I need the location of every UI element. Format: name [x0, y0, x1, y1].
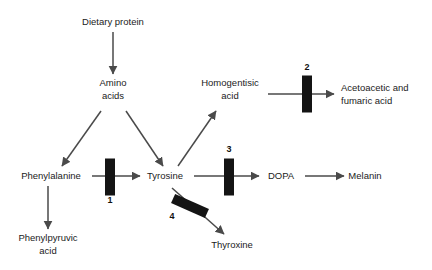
node-line: Homogentisic — [201, 77, 259, 88]
node-line: acids — [102, 90, 124, 101]
node-line: DOPA — [268, 170, 295, 181]
node-label-acetoacetic-fumaric-acid: Acetoacetic andfumaric acid — [341, 82, 409, 106]
enzyme-block-4: 4 — [169, 194, 208, 221]
arrow-tyrosine-to-homogentisic-acid — [178, 111, 216, 166]
block-1-number: 1 — [107, 195, 112, 205]
enzyme-block-2: 2 — [302, 62, 312, 113]
node-line: Phenylpyruvic — [18, 232, 77, 243]
node-line: fumaric acid — [341, 95, 392, 106]
node-label-phenylpyruvic-acid: Phenylpyruvicacid — [18, 232, 77, 256]
block-4-bar — [171, 194, 209, 218]
node-line: Amino — [100, 77, 127, 88]
labels-layer: Dietary proteinAminoacidsHomogentisicaci… — [18, 16, 408, 256]
node-line: acid — [39, 245, 56, 256]
node-label-amino-acids: Aminoacids — [100, 77, 127, 101]
enzyme-block-1: 1 — [105, 159, 115, 206]
node-line: acid — [221, 90, 238, 101]
node-line: Tyrosine — [147, 170, 183, 181]
node-line: Phenylalanine — [21, 170, 81, 181]
node-label-melanin: Melanin — [348, 170, 381, 181]
node-line: Melanin — [348, 170, 381, 181]
node-label-dietary-protein: Dietary protein — [82, 16, 144, 27]
node-line: Dietary protein — [82, 16, 144, 27]
node-line: Thyroxine — [211, 239, 253, 250]
arrow-amino-acids-to-tyrosine — [126, 111, 163, 166]
node-label-homogentisic-acid: Homogentisicacid — [201, 77, 259, 101]
pathway-diagram: 1234 Dietary proteinAminoacidsHomogentis… — [0, 0, 432, 270]
block-2-number: 2 — [304, 62, 309, 72]
enzyme-block-3: 3 — [224, 144, 234, 196]
block-4-number: 4 — [169, 211, 174, 221]
pathway-canvas: 1234 Dietary proteinAminoacidsHomogentis… — [0, 0, 432, 270]
arrow-amino-acids-to-phenylalanine — [62, 111, 101, 166]
block-1-bar — [105, 159, 115, 196]
block-3-number: 3 — [226, 144, 231, 154]
node-label-dopa: DOPA — [268, 170, 295, 181]
node-label-thyroxine: Thyroxine — [211, 239, 253, 250]
node-label-tyrosine: Tyrosine — [147, 170, 183, 181]
block-2-bar — [302, 76, 312, 113]
node-label-phenylalanine: Phenylalanine — [21, 170, 81, 181]
node-line: Acetoacetic and — [341, 82, 409, 93]
block-3-bar — [224, 159, 234, 196]
